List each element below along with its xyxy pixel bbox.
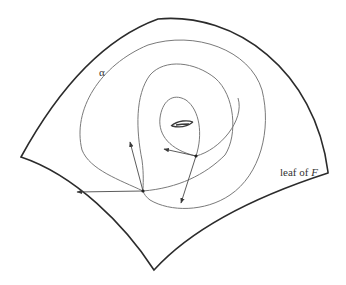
curve-alpha-middle-loop xyxy=(138,64,233,191)
leaf-label-prefix: leaf of xyxy=(280,166,311,178)
diagram-svg xyxy=(0,0,346,285)
alpha-label: α xyxy=(99,66,105,78)
leaf-label-var: F xyxy=(311,166,318,178)
handle-icon xyxy=(171,121,193,127)
marked-point-1 xyxy=(141,189,144,192)
arrow-down xyxy=(181,156,196,203)
arrow-up xyxy=(130,142,143,191)
arrow-left xyxy=(77,191,143,192)
marked-point-2 xyxy=(194,154,197,157)
leaf-boundary xyxy=(21,18,328,270)
leaf-label: leaf of F xyxy=(280,166,318,178)
foliation-leaf-diagram: α leaf of F xyxy=(0,0,346,285)
curve-alpha-tail xyxy=(196,98,239,156)
